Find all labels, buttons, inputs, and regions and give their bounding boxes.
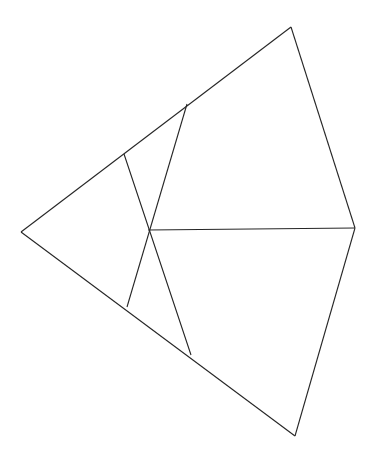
- geometric-figure-canvas: [0, 0, 376, 454]
- canvas-background: [0, 0, 376, 454]
